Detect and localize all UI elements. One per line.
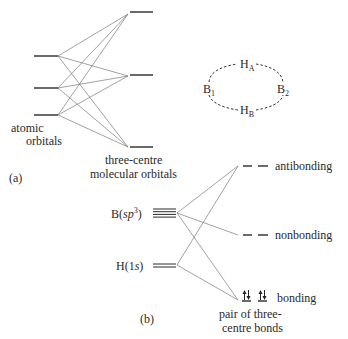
- spin-up-arrowhead: [243, 290, 247, 294]
- molecular-orbitals-label: molecular orbitals: [90, 167, 177, 181]
- antibonding-label: antibonding: [275, 159, 332, 173]
- connection-line: [177, 166, 238, 213]
- bonding-label: bonding: [277, 291, 316, 305]
- mo-diagram: atomic orbitals three-centre molecular o…: [0, 0, 348, 339]
- connection-line: [58, 14, 128, 56]
- part-a-diagram: atomic orbitals three-centre molecular o…: [9, 12, 289, 185]
- electron-pair-2: [259, 290, 267, 300]
- part-b-label: (b): [140, 312, 154, 326]
- atom-b2: B2: [277, 82, 289, 98]
- hydrogen-1s-label: H(1s): [116, 259, 143, 273]
- ring-bond-lower-right: [256, 95, 283, 110]
- ring-bond-upper-left: [209, 64, 237, 82]
- b-h-b-ring: B1 HA B2 HB: [203, 57, 289, 119]
- connection-line: [58, 14, 128, 115]
- spin-down-arrowhead: [263, 296, 267, 300]
- connection-line: [58, 56, 128, 147]
- atomic-orbitals-label: orbitals: [26, 134, 62, 148]
- connection-line: [177, 213, 238, 300]
- atom-ha: HA: [240, 57, 255, 73]
- atomic-orbitals-label: atomic: [11, 121, 44, 135]
- hydrogen-1s-levels: [153, 264, 176, 267]
- boron-sp3-levels: [153, 209, 176, 217]
- nonbonding-label: nonbonding: [275, 228, 332, 242]
- electron-pair-1: [243, 290, 251, 300]
- spin-up-arrowhead: [259, 290, 263, 294]
- part-a-label: (a): [9, 171, 22, 185]
- connection-line: [177, 265, 238, 300]
- ring-bond-upper-right: [256, 64, 283, 82]
- connection-line: [58, 115, 128, 147]
- connection-line: [177, 166, 238, 265]
- connection-line: [58, 88, 128, 147]
- boron-sp3-label: B(sp3): [111, 206, 142, 221]
- connection-line: [58, 56, 128, 76]
- spin-down-arrowhead: [247, 296, 251, 300]
- atom-b1: B1: [203, 82, 215, 98]
- connection-line: [177, 213, 238, 235]
- bonding-note: pair of three-: [219, 307, 282, 321]
- part-a-connections: [58, 14, 128, 147]
- atom-hb: HB: [240, 103, 254, 119]
- bonding-note: centre bonds: [222, 321, 283, 335]
- part-b-diagram: B(sp3) H(1s) antibonding nonbonding: [111, 159, 332, 335]
- molecular-orbitals-label: three-centre: [105, 153, 162, 167]
- connection-line: [58, 14, 128, 88]
